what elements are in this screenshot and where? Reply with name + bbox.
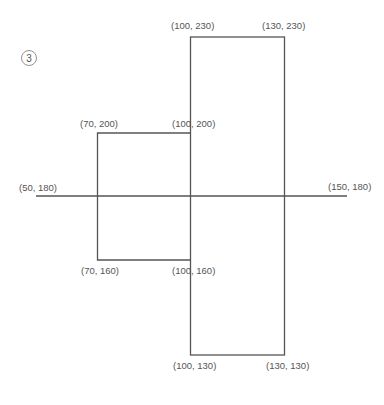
label-130-130: (130, 130) (266, 360, 309, 371)
label-70-200: (70, 200) (80, 118, 118, 129)
label-100-200: (100, 200) (172, 118, 215, 129)
label-100-160: (100, 160) (172, 265, 215, 276)
label-150-180: (150, 180) (328, 181, 371, 192)
figure-number-text: 3 (26, 53, 32, 64)
diagram-canvas: 3 (100, 230) (130, 230) (70, 200) (100, … (0, 0, 384, 405)
label-50-180: (50, 180) (19, 182, 57, 193)
label-130-230: (130, 230) (262, 20, 305, 31)
label-100-230: (100, 230) (171, 20, 214, 31)
figure-number: 3 (22, 51, 37, 66)
label-70-160: (70, 160) (81, 265, 119, 276)
label-100-130: (100, 130) (173, 360, 216, 371)
